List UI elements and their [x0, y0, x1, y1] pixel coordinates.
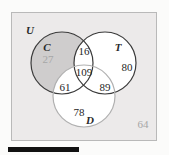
region-count-c-only: 27 — [43, 54, 54, 65]
set-label-d: D — [86, 115, 94, 126]
region-count-c-t-d: 109 — [76, 67, 93, 78]
universe-label: U — [26, 25, 34, 36]
region-count-t-and-d: 89 — [100, 82, 111, 93]
region-count-c-and-d: 61 — [60, 82, 71, 93]
set-label-c: C — [43, 42, 50, 53]
bottom-rule-bar — [8, 147, 79, 152]
region-count-c-and-t: 16 — [79, 46, 90, 57]
region-count-t-only: 80 — [122, 62, 133, 73]
region-count-d-only: 78 — [74, 107, 85, 118]
venn-diagram-screenshot: U C T D 27 16 80 109 61 89 78 64 — [0, 0, 169, 155]
region-count-outside: 64 — [138, 119, 149, 130]
set-label-t: T — [115, 42, 122, 53]
